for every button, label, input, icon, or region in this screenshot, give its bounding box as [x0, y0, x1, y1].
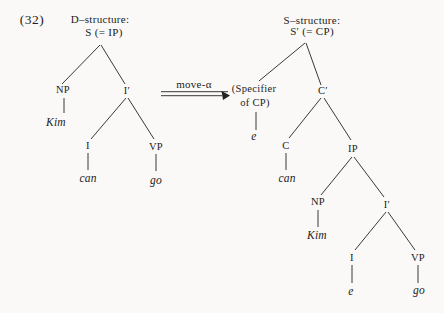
s-vp-node: VP — [411, 253, 425, 264]
s-i-terminal: e — [348, 286, 353, 298]
s-np-terminal: Kim — [307, 230, 327, 242]
d-np-terminal: Kim — [46, 117, 66, 129]
s-i-node: I — [350, 253, 354, 264]
s-vp-terminal: go — [413, 285, 425, 297]
d-np-node: NP — [56, 85, 70, 96]
s-ibar-node: I′ — [384, 200, 390, 211]
move-alpha-label: move-α — [176, 79, 212, 90]
syntax-tree-figure: (32) move-α D–structure: S (= IP) NP Kim… — [0, 0, 444, 313]
s-np-node: NP — [311, 197, 325, 208]
s-root-node: S′ (= CP) — [290, 26, 334, 37]
d-structure-title: D–structure: — [71, 14, 130, 25]
s-c-node: C — [282, 141, 289, 152]
s-ip-node: IP — [348, 144, 358, 155]
s-c-terminal: can — [278, 173, 295, 185]
arrow-head-icon — [222, 91, 231, 100]
d-i-terminal: can — [79, 173, 96, 185]
s-specifier-node-line1: (Specifier — [232, 84, 276, 95]
d-ibar-node: I′ — [124, 86, 130, 97]
s-specifier-node-line2: of CP) — [240, 98, 270, 109]
d-vp-terminal: go — [150, 175, 162, 187]
tree-branch-lines — [0, 0, 444, 313]
d-i-node: I — [86, 141, 90, 152]
d-vp-node: VP — [149, 142, 163, 153]
s-specifier-terminal: e — [251, 131, 256, 143]
d-root-node: S (= IP) — [85, 27, 122, 38]
figure-number: (32) — [20, 13, 45, 27]
s-cbar-node: C′ — [318, 86, 328, 97]
